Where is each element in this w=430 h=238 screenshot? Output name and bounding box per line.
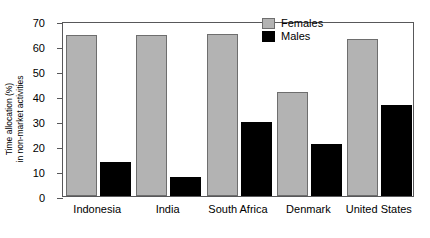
y-axis-tick — [57, 73, 63, 74]
bar-males-denmark — [311, 144, 342, 196]
legend-item-males: Males — [262, 31, 323, 42]
y-axis-tick — [57, 48, 63, 49]
legend-label-males: Males — [281, 31, 310, 42]
bar-males-united-states — [381, 105, 412, 196]
y-axis-tick — [57, 173, 63, 174]
bar-females-indonesia — [66, 35, 97, 196]
bar-chart-figure: Time allocation (%) in non-market activi… — [0, 0, 430, 238]
x-axis-label-south-africa: South Africa — [208, 203, 267, 215]
legend-label-females: Females — [281, 18, 323, 29]
y-axis-tick — [57, 198, 63, 199]
chart-legend: Females Males — [262, 18, 323, 42]
bar-males-indonesia — [100, 162, 131, 196]
x-axis-label-denmark: Denmark — [286, 203, 331, 215]
y-axis-tick-label: 0 — [5, 193, 45, 204]
x-axis-label-india: India — [156, 203, 180, 215]
y-axis-tick-label: 70 — [5, 18, 45, 29]
y-axis-tick — [57, 23, 63, 24]
y-axis-tick-label: 30 — [5, 118, 45, 129]
y-axis-tick-label: 20 — [5, 143, 45, 154]
bar-females-south-africa — [207, 34, 238, 197]
y-axis-tick — [57, 98, 63, 99]
y-axis-tick-label: 50 — [5, 68, 45, 79]
bar-males-india — [170, 177, 201, 197]
bar-females-india — [136, 35, 167, 196]
y-axis-tick-label: 10 — [5, 168, 45, 179]
y-axis-tick — [57, 123, 63, 124]
y-axis-tick — [57, 148, 63, 149]
y-axis-tick-label: 40 — [5, 93, 45, 104]
y-axis-tick-label: 60 — [5, 43, 45, 54]
x-axis-label-indonesia: Indonesia — [73, 203, 121, 215]
bar-females-denmark — [277, 92, 308, 196]
legend-swatch-females-icon — [262, 18, 275, 29]
legend-item-females: Females — [262, 18, 323, 29]
x-axis-label-united-states: United States — [346, 203, 412, 215]
bar-females-united-states — [347, 39, 378, 197]
legend-swatch-males-icon — [262, 31, 275, 42]
bar-males-south-africa — [241, 122, 272, 196]
plot-area: 010203040506070 — [62, 22, 414, 197]
